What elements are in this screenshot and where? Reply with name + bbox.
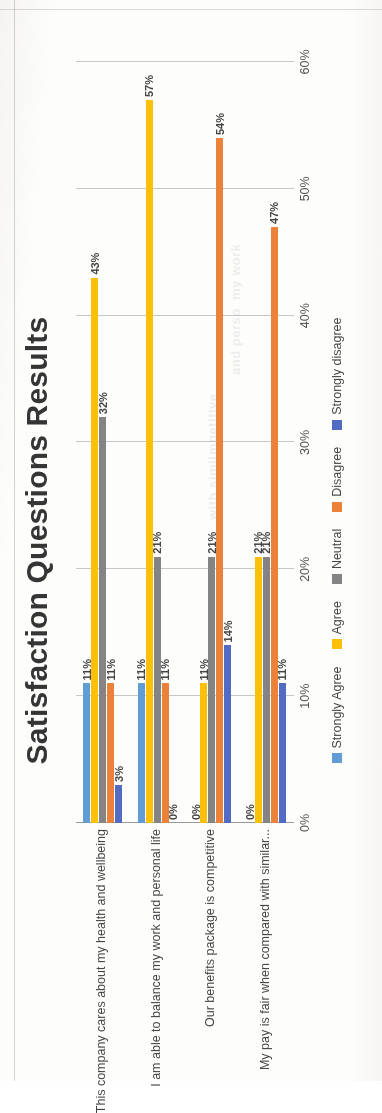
legend-label: Strongly disagree: [330, 318, 344, 415]
bar-row: 11%: [162, 62, 169, 823]
category-axis-label: My pay is fair when compared with simila…: [259, 829, 273, 1070]
value-axis-tick: 10%: [298, 684, 312, 709]
bar-row: 0%: [247, 62, 254, 823]
bar-row: 32%: [99, 62, 106, 823]
legend-swatch: [332, 753, 342, 763]
bar-row: 21%: [208, 62, 215, 823]
bar-row: 43%: [91, 62, 98, 823]
legend-swatch: [332, 574, 342, 584]
category-axis-label: This company cares about my health and w…: [95, 829, 109, 1113]
bar[interactable]: [208, 557, 215, 823]
bar-row: 57%: [146, 62, 153, 823]
bar-row: 0%: [192, 62, 199, 823]
bar[interactable]: [263, 557, 270, 823]
bar-row: 21%: [154, 62, 161, 823]
value-axis-tick: 60%: [298, 49, 312, 74]
bar-row: 21%: [255, 62, 262, 823]
bar-row: 47%: [271, 62, 278, 823]
bar[interactable]: [107, 683, 114, 823]
bar[interactable]: [224, 645, 231, 823]
legend-item[interactable]: Strongly disagree: [330, 318, 344, 430]
bar[interactable]: [271, 227, 278, 823]
category-axis: This company cares about my health and w…: [76, 829, 294, 1081]
legend-label: Disagree: [330, 447, 344, 497]
bar-group: 0%11%21%54%14%: [185, 62, 240, 823]
legend-swatch: [332, 502, 342, 512]
bar[interactable]: [91, 278, 98, 823]
legend-item[interactable]: Neutral: [330, 529, 344, 584]
bar-value-label: 14%: [222, 620, 234, 645]
legend-swatch: [332, 639, 342, 649]
legend-label: Neutral: [330, 529, 344, 569]
bar-row: 11%: [83, 62, 90, 823]
bar[interactable]: [83, 683, 90, 823]
value-axis: 0%10%20%30%40%50%60%: [298, 62, 318, 823]
bar[interactable]: [216, 138, 223, 823]
value-axis-tick: 40%: [298, 303, 312, 328]
bar[interactable]: [115, 785, 122, 823]
bar-row: 11%: [138, 62, 145, 823]
bar-row: 0%: [170, 62, 177, 823]
bar[interactable]: [146, 100, 153, 823]
value-axis-tick: 50%: [298, 176, 312, 201]
bar-row: 54%: [216, 62, 223, 823]
bar-group: 0%21%21%47%11%: [240, 62, 295, 823]
bar-value-label: 3%: [113, 766, 125, 785]
bar[interactable]: [99, 417, 106, 823]
bar-row: 11%: [107, 62, 114, 823]
bar[interactable]: [154, 557, 161, 823]
bar-group: 11%57%21%11%0%: [131, 62, 186, 823]
category-axis-label: I am able to balance my work and persona…: [150, 829, 164, 1087]
bar-value-label: 0%: [167, 804, 179, 823]
value-axis-tick: 0%: [298, 814, 312, 832]
legend-swatch: [332, 420, 342, 430]
legend-item[interactable]: Strongly Agree: [330, 666, 344, 763]
bar-row: 11%: [279, 62, 286, 823]
bar-value-label: 11%: [276, 659, 288, 683]
value-axis-tick: 20%: [298, 557, 312, 582]
bar-row: 11%: [200, 62, 207, 823]
chart-title: Satisfaction Questions Results: [20, 0, 54, 1081]
bar[interactable]: [162, 683, 169, 823]
value-axis-tick: 30%: [298, 430, 312, 455]
legend-label: Agree: [330, 601, 344, 634]
legend-label: Strongly Agree: [330, 666, 344, 748]
bar-row: 3%: [115, 62, 122, 823]
category-axis-label: Our benefits package is competitive: [204, 829, 218, 1027]
bar-row: 14%: [224, 62, 231, 823]
bar[interactable]: [255, 557, 262, 823]
bar[interactable]: [279, 683, 286, 823]
legend-item[interactable]: Disagree: [330, 447, 344, 512]
bar[interactable]: [200, 683, 207, 823]
plot-area: 11%43%32%11%3%11%57%21%11%0%0%11%21%54%1…: [76, 62, 294, 823]
bar-row: 21%: [263, 62, 270, 823]
chart-legend: Strongly AgreeAgreeNeutralDisagreeStrong…: [330, 0, 344, 1081]
bar-group: 11%43%32%11%3%: [76, 62, 131, 823]
legend-item[interactable]: Agree: [330, 601, 344, 649]
bar[interactable]: [138, 683, 145, 823]
